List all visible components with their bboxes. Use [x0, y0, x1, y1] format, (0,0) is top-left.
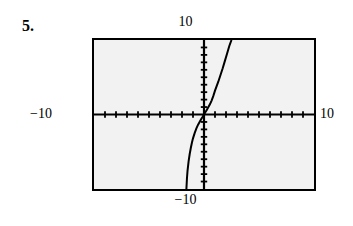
- figure-root: 5. 10 −10 10 −10: [0, 0, 353, 226]
- calculator-screen: [92, 38, 316, 191]
- window-label-ymax: 10: [0, 14, 353, 30]
- window-label-xmin: −10: [30, 106, 52, 122]
- window-label-ymin: −10: [0, 192, 353, 208]
- window-label-xmax: 10: [320, 106, 334, 122]
- plot-area: [94, 40, 314, 189]
